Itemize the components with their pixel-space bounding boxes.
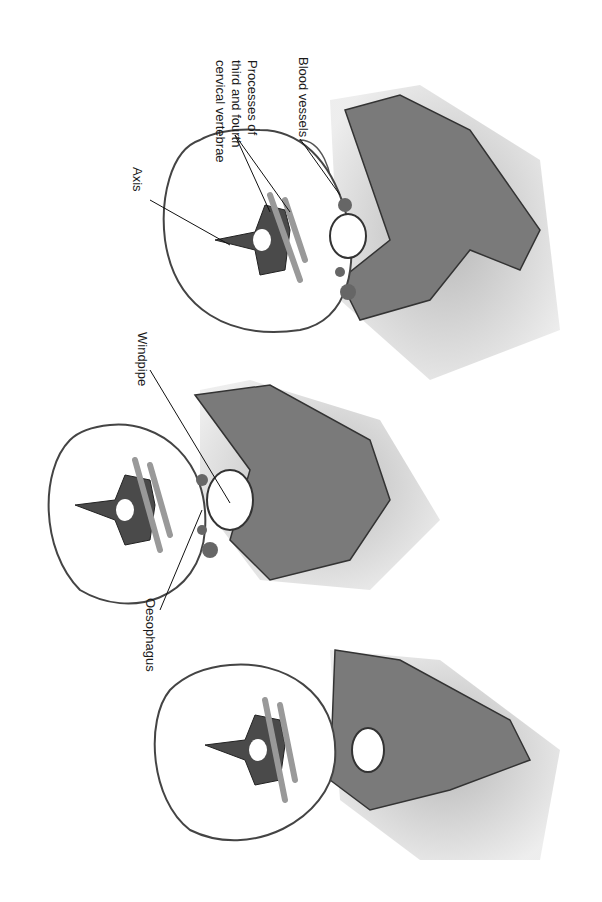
label-processes-line3: cervical vertebrae bbox=[213, 60, 228, 163]
panel-top bbox=[150, 85, 560, 380]
panel-middle bbox=[49, 370, 440, 610]
label-blood-vessels: Blood vessels bbox=[296, 57, 311, 137]
label-oesophagus: Oesophagus bbox=[143, 598, 158, 672]
panel-bottom bbox=[155, 650, 560, 860]
label-processes-line1: Processes of bbox=[245, 60, 260, 135]
label-processes-line2: third and fourth bbox=[229, 60, 244, 147]
label-windpipe: Windpipe bbox=[135, 332, 150, 386]
label-axis: Axis bbox=[130, 167, 145, 192]
